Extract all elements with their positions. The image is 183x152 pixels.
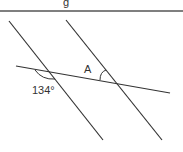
angle-label-a: A <box>84 63 92 75</box>
angle-arc-a <box>100 70 106 80</box>
cropped-heading-text: g <box>63 0 69 8</box>
parallel-lines-diagram: g 134° A <box>0 0 183 152</box>
angle-label-134: 134° <box>32 84 55 96</box>
parallel-line-left <box>9 21 103 140</box>
parallel-line-right <box>66 20 162 140</box>
